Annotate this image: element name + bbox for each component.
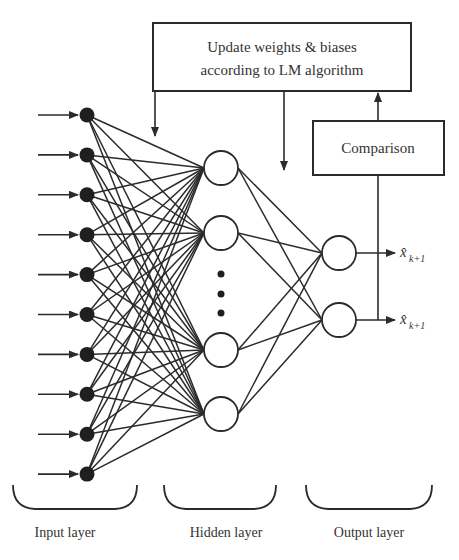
svg-text:x̂: x̂ (399, 311, 407, 327)
update-weights-box: Update weights & biases according to LM … (153, 23, 411, 91)
output-node (322, 303, 356, 337)
input-layer-brace (13, 485, 137, 509)
input-arrows (38, 115, 78, 474)
hidden-ellipsis-icon (218, 271, 225, 317)
input-node (80, 307, 95, 322)
input-node (80, 267, 95, 282)
input-node (80, 108, 95, 123)
svg-text:x̂: x̂ (399, 244, 407, 260)
output-arrows (356, 253, 395, 320)
output-layer-label: Output layer (334, 525, 405, 540)
output-label-2: x̂ k+1 (399, 311, 425, 331)
input-node (80, 347, 95, 362)
hidden-node (204, 397, 238, 431)
output-node (322, 236, 356, 270)
comparison-box: Comparison (313, 121, 444, 175)
hidden-layer-label: Hidden layer (190, 525, 263, 540)
input-node (80, 467, 95, 482)
input-node (80, 227, 95, 242)
update-box-line2: according to LM algorithm (201, 62, 364, 78)
svg-text:k+1: k+1 (409, 253, 425, 264)
input-node (80, 387, 95, 402)
input-node (80, 147, 95, 162)
comparison-label: Comparison (341, 140, 415, 156)
output-label-1: x̂ k+1 (399, 244, 425, 264)
hidden-node (204, 151, 238, 185)
update-box-line1: Update weights & biases (207, 39, 357, 55)
hidden-node (204, 216, 238, 250)
output-layer-brace (306, 485, 432, 509)
input-layer-label: Input layer (34, 525, 95, 540)
svg-text:k+1: k+1 (409, 320, 425, 331)
neural-network-diagram: Update weights & biases according to LM … (0, 0, 459, 560)
input-node (80, 187, 95, 202)
hidden-layer-brace (164, 485, 276, 509)
input-node (80, 427, 95, 442)
hidden-node (204, 333, 238, 367)
layer-braces (13, 485, 432, 509)
